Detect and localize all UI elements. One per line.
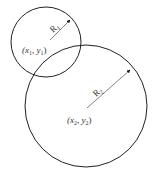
radius-2-label: R2 — [91, 85, 105, 99]
circle-1 — [11, 7, 81, 77]
circle-2 — [25, 45, 147, 167]
center-1-label: (x1, y1) — [22, 45, 47, 56]
center-2-label: (x2, y2) — [67, 115, 92, 126]
radius-1-label: R1 — [48, 21, 62, 35]
two-circles-diagram: R1 R2 (x1, y1) (x2, y2) — [0, 0, 155, 176]
